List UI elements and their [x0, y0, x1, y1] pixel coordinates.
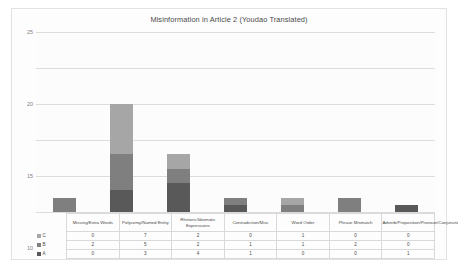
bar-stack	[338, 198, 361, 212]
bar-segment-a[interactable]	[167, 183, 190, 212]
table-cell: 0	[329, 232, 382, 241]
chart-title: Misinformation in Article 2 (Youdao Tran…	[12, 15, 446, 24]
bar-column[interactable]	[93, 32, 150, 212]
legend-swatch-icon	[37, 234, 41, 238]
table-cell: 2	[329, 241, 382, 250]
bar-stack	[395, 205, 418, 212]
bar-segment-b[interactable]	[167, 169, 190, 183]
table-cell: 7	[119, 232, 172, 241]
legend-label: B	[43, 242, 46, 247]
bar-segment-c[interactable]	[167, 154, 190, 168]
bar-column[interactable]	[378, 32, 435, 212]
legend-item-b[interactable]: B	[36, 241, 67, 250]
table-row: B2521120	[36, 241, 435, 250]
table-cell: 0	[224, 232, 277, 241]
table-cell: 1	[382, 250, 435, 259]
table-cell: 0	[277, 250, 330, 259]
plot-area: 0510152025	[36, 32, 435, 212]
bar-stack	[224, 198, 247, 212]
table-cell: 2	[67, 241, 120, 250]
legend-item-c[interactable]: C	[36, 232, 67, 241]
table-column-header: Word Order	[277, 214, 330, 232]
y-axis-tick-label: 15	[27, 173, 33, 179]
bar-segment-a[interactable]	[110, 190, 133, 212]
data-table: Missing/Extra WordsPolysemy/Named Entity…	[36, 213, 435, 259]
bar-segment-b[interactable]	[338, 198, 361, 212]
bar-segment-b[interactable]	[224, 198, 247, 205]
table-column-header: Contradiction/Misc	[224, 214, 277, 232]
bar-segment-a[interactable]	[224, 205, 247, 212]
legend-swatch-icon	[37, 252, 41, 256]
y-axis-tick-label: 10	[27, 245, 33, 251]
bar-segment-a[interactable]	[395, 205, 418, 212]
bar-stack	[53, 198, 76, 212]
bar-column[interactable]	[321, 32, 378, 212]
bar-column[interactable]	[264, 32, 321, 212]
table-cell: 1	[224, 250, 277, 259]
table-cell: 0	[67, 250, 120, 259]
y-axis-tick-label: 25	[27, 29, 33, 35]
table-cell: 3	[119, 250, 172, 259]
legend-header-cell	[36, 214, 67, 232]
table-cell: 0	[382, 232, 435, 241]
table-cell: 0	[382, 241, 435, 250]
table-column-header: Missing/Extra Words	[67, 214, 120, 232]
bar-stack	[281, 198, 304, 212]
table-row: C0720100	[36, 232, 435, 241]
chart-container: Misinformation in Article 2 (Youdao Tran…	[11, 8, 447, 260]
bar-column[interactable]	[207, 32, 264, 212]
table-column-header: Polysemy/Named Entity	[119, 214, 172, 232]
bar-column[interactable]	[36, 32, 93, 212]
table-cell: 2	[172, 241, 225, 250]
bar-series-group	[36, 32, 435, 212]
bar-segment-b[interactable]	[281, 205, 304, 212]
bar-segment-b[interactable]	[110, 154, 133, 190]
legend-label: C	[43, 233, 46, 238]
bar-stack	[110, 104, 133, 212]
bar-segment-c[interactable]	[110, 104, 133, 154]
table-cell: 1	[277, 232, 330, 241]
table-cell: 0	[67, 232, 120, 241]
table-cell: 5	[119, 241, 172, 250]
bar-segment-c[interactable]	[281, 198, 304, 205]
table-row: A0341001	[36, 250, 435, 259]
legend-label: A	[43, 251, 46, 256]
table-column-header: Rhetoric/Idiomatic Expressions	[172, 214, 225, 232]
legend-item-a[interactable]: A	[36, 250, 67, 259]
bar-column[interactable]	[150, 32, 207, 212]
table-cell: 2	[172, 232, 225, 241]
table-cell: 0	[329, 250, 382, 259]
bar-segment-b[interactable]	[53, 198, 76, 212]
table-body: C0720100B2521120A0341001	[36, 232, 435, 259]
table-cell: 1	[224, 241, 277, 250]
table-header-row: Missing/Extra WordsPolysemy/Named Entity…	[36, 214, 435, 232]
y-axis-tick-label: 20	[27, 101, 33, 107]
table-cell: 1	[277, 241, 330, 250]
legend-swatch-icon	[37, 243, 41, 247]
table-column-header: Adverb/Preposition/Pronoun/Conjunction	[382, 214, 435, 232]
bar-stack	[167, 154, 190, 212]
table-cell: 4	[172, 250, 225, 259]
table-column-header: Phrase Mismatch	[329, 214, 382, 232]
